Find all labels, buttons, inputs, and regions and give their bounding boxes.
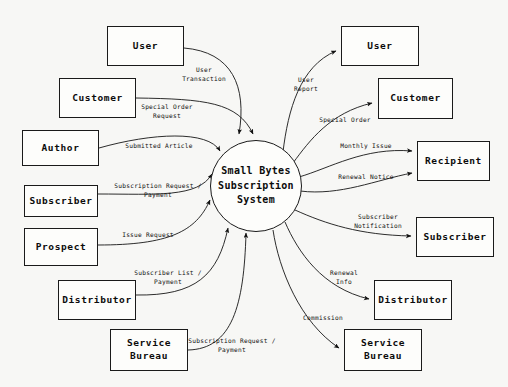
entity-recipient-right[interactable]: Recipient bbox=[417, 141, 490, 181]
flow-path-subscription-request-sb bbox=[188, 233, 246, 350]
flow-path-user-transaction bbox=[184, 48, 241, 134]
entity-service-bureau-right[interactable]: Service Bureau bbox=[344, 329, 422, 371]
flow-path-submitted-article bbox=[99, 136, 220, 151]
entity-subscriber-right[interactable]: Subscriber bbox=[416, 217, 494, 257]
entity-service-bureau-left[interactable]: Service Bureau bbox=[110, 329, 188, 371]
process-small-bytes-subscription-system[interactable]: Small Bytes Subscription System bbox=[210, 140, 302, 232]
entity-user-right[interactable]: User bbox=[341, 26, 419, 66]
entity-distributor-right[interactable]: Distributor bbox=[374, 280, 452, 320]
flow-path-renewal-notice bbox=[300, 173, 412, 192]
flow-path-commission bbox=[273, 230, 339, 348]
flow-path-renewal-info bbox=[285, 222, 369, 299]
entity-distributor-left[interactable]: Distributor bbox=[58, 280, 136, 320]
entity-subscriber-left[interactable]: Subscriber bbox=[24, 185, 98, 217]
entity-customer-left[interactable]: Customer bbox=[59, 78, 136, 118]
flow-path-subscriber-notification bbox=[295, 210, 411, 236]
entity-customer-right[interactable]: Customer bbox=[378, 78, 453, 119]
flow-path-subscriber-list-payment bbox=[136, 228, 228, 295]
flow-path-special-order bbox=[293, 103, 372, 163]
flow-path-monthly-issue bbox=[299, 150, 412, 177]
flow-path-user-report bbox=[283, 51, 336, 152]
entity-author-left[interactable]: Author bbox=[22, 130, 99, 166]
entity-user-left[interactable]: User bbox=[107, 26, 184, 66]
flow-path-issue-request bbox=[98, 200, 210, 245]
flow-path-special-order-request bbox=[136, 98, 253, 134]
context-diagram: Small Bytes Subscription System User Cus… bbox=[0, 0, 508, 387]
flow-path-subscription-request-sub bbox=[98, 174, 212, 194]
entity-prospect-left[interactable]: Prospect bbox=[24, 228, 98, 266]
